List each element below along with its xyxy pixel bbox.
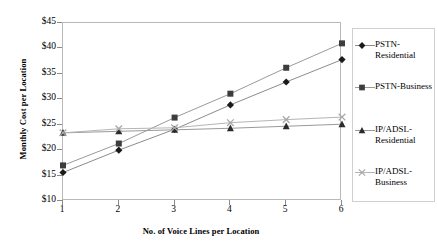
- line-chart: Monthly Cost per Location $10$15$20$25$3…: [0, 0, 437, 250]
- x-axis-tick-label: 3: [162, 205, 186, 215]
- series-line: [63, 60, 342, 173]
- x-axis-tick-label: 1: [50, 205, 74, 215]
- legend-item[interactable]: IP/ADSL-Business: [355, 166, 434, 187]
- data-point: [227, 91, 233, 97]
- plot-area: [62, 22, 341, 200]
- legend-marker-square-icon: [355, 82, 375, 93]
- legend-label: PSTN-Business: [375, 81, 434, 92]
- y-axis-tick-label: $25: [16, 119, 56, 129]
- data-point: [339, 40, 345, 46]
- legend-label: IP/ADSL-Business: [375, 166, 434, 187]
- data-point: [227, 101, 234, 108]
- x-axis-tick-label: 6: [329, 205, 353, 215]
- series-line: [63, 43, 342, 165]
- y-axis-tick-label: $40: [16, 42, 56, 52]
- y-axis-tick-label: $45: [16, 17, 56, 27]
- y-axis-tick-label: $10: [16, 195, 56, 205]
- data-point: [172, 115, 178, 121]
- y-axis-tick-label: $20: [16, 144, 56, 154]
- data-point: [60, 162, 66, 168]
- legend-marker-triangle-icon: [355, 125, 375, 136]
- data-point: [339, 120, 346, 127]
- series-triangle: [60, 120, 346, 135]
- y-axis-title: Monthly Cost per Location: [18, 34, 28, 184]
- x-axis-tick-label: 4: [217, 205, 241, 215]
- x-axis-title: No. of Voice Lines per Location: [57, 226, 345, 236]
- data-point: [115, 147, 122, 154]
- x-axis-tick-label: 2: [106, 205, 130, 215]
- legend-marker-diamond-icon: [355, 40, 375, 51]
- plot-series-svg: [63, 23, 342, 201]
- data-point: [338, 56, 345, 63]
- series-diamond: [59, 56, 345, 176]
- y-axis-tick-label: $15: [16, 170, 56, 180]
- legend-label: PSTN-Residential: [375, 39, 434, 60]
- legend-item[interactable]: PSTN-Residential: [355, 39, 434, 60]
- data-point: [116, 141, 122, 147]
- legend-item[interactable]: PSTN-Business: [355, 81, 434, 93]
- legend-label: IP/ADSL-Residential: [375, 124, 434, 145]
- series-square: [60, 40, 345, 168]
- y-axis-tick-label: $35: [16, 68, 56, 78]
- legend-item[interactable]: IP/ADSL-Residential: [355, 124, 434, 145]
- series-line: [63, 117, 342, 133]
- y-axis-tick-label: $30: [16, 93, 56, 103]
- x-axis-tick-label: 5: [273, 205, 297, 215]
- data-point: [283, 78, 290, 85]
- chart-legend: PSTN-ResidentialPSTN-BusinessIP/ADSL-Res…: [352, 28, 435, 202]
- legend-marker-cross-icon: [355, 167, 375, 178]
- data-point: [283, 65, 289, 71]
